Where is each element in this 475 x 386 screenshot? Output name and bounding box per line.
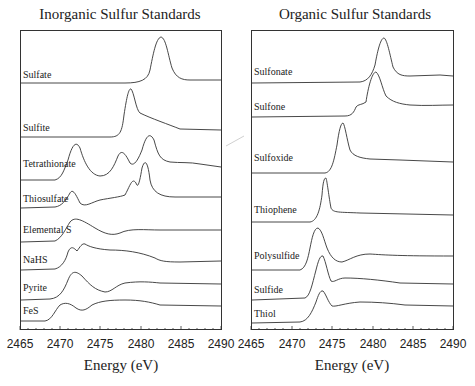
trace-thiophene (252, 178, 453, 222)
series-label: Sulfate (23, 69, 51, 80)
x-tick-label: 2465 (7, 337, 34, 351)
trace-pyrite (21, 272, 221, 300)
trace-fes (21, 300, 221, 321)
series-label: Sulfide (254, 284, 283, 295)
x-tick-label: 2465 (238, 337, 265, 351)
trace-nahs (21, 244, 221, 270)
series-label: NaHS (23, 254, 47, 265)
series-label: Sulfoxide (254, 152, 293, 163)
series-label: Thiosulfate (23, 193, 69, 204)
x-tick-label: 2475 (87, 337, 114, 351)
series-label: Sulfone (254, 101, 285, 112)
series-label: FeS (23, 305, 39, 316)
trace-sulfite (21, 89, 221, 137)
series-label: Polysulfide (254, 250, 300, 261)
x-tick-label: 2485 (168, 337, 195, 351)
x-tick-label: 2480 (128, 337, 155, 351)
spectra-plot (0, 0, 475, 386)
series-label: Elemental S (23, 224, 72, 235)
series-label: Thiol (254, 308, 276, 319)
series-label: Pyrite (23, 282, 47, 293)
trace-thiol (252, 291, 453, 323)
x-tick-label: 2490 (440, 337, 467, 351)
left-x-axis-label: Energy (eV) (84, 357, 158, 374)
right-x-axis-label: Energy (eV) (315, 357, 389, 374)
series-label: Sulfite (23, 122, 50, 133)
trace-sulfoxide (252, 123, 453, 173)
trace-polysulfide (252, 228, 453, 270)
x-tick-label: 2480 (360, 337, 387, 351)
x-axis-ticks (20, 326, 453, 330)
x-tick-label: 2470 (279, 337, 306, 351)
series-label: Thiophene (254, 204, 297, 215)
x-tick-label: 2485 (400, 337, 427, 351)
scan-artifact-line (226, 136, 244, 146)
x-tick-label: 2470 (47, 337, 74, 351)
x-tick-label: 2475 (319, 337, 346, 351)
x-tick-label: 2490 (208, 337, 235, 351)
series-label: Tetrathionate (23, 158, 76, 169)
series-label: Sulfonate (254, 66, 292, 77)
